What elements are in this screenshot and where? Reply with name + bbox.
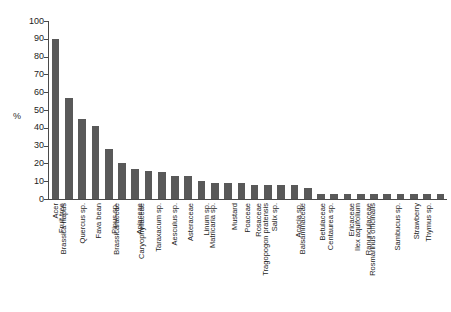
bar <box>437 21 445 199</box>
x-axis-tick-label-text: Strawberry <box>409 167 417 203</box>
bar <box>277 21 285 199</box>
x-axis-tick-label-text: Tragopogon pratensis <box>258 130 266 203</box>
x-axis-tick-label-text: Centaurea sp. <box>324 156 332 203</box>
y-axis-tick-label: 40 <box>34 123 44 132</box>
y-axis-tick-mark <box>44 74 48 75</box>
x-axis-tick-label-text: Mustard <box>228 176 236 203</box>
x-axis-tick-label-text: Salix sp. <box>267 175 275 203</box>
bar <box>238 21 246 199</box>
x-axis-tick-label-text: Brassica napus <box>57 152 65 203</box>
bar-rect <box>437 194 445 199</box>
y-axis-tick-label: 50 <box>34 106 44 115</box>
bar <box>304 21 312 199</box>
y-axis-title: % <box>13 111 21 121</box>
x-axis-tick-label-text: Poaceae <box>240 173 248 203</box>
y-axis-tick-label: 30 <box>34 141 44 150</box>
y-axis-tick-mark <box>44 57 48 58</box>
x-axis-tick-label-text: Ilex aquifolium <box>350 155 358 203</box>
y-axis-tick-label: 70 <box>34 70 44 79</box>
y-axis-tick-mark <box>44 146 48 147</box>
y-axis-tick-mark <box>44 128 48 129</box>
x-axis-tick-label-text: Quercus sp. <box>75 163 83 203</box>
bar-rect <box>118 163 126 199</box>
x-axis-tick-label-text: Betulaceae <box>315 165 323 203</box>
y-axis-tick-label: 10 <box>34 177 44 186</box>
y-axis-tick-mark <box>44 21 48 22</box>
x-axis-tick-label: Ranunculaceae <box>381 201 394 311</box>
bar-chart: % 1009080706050403020100 AcerFruit treeB… <box>0 0 451 312</box>
bar-rect <box>330 194 338 199</box>
y-axis-tick-mark <box>44 181 48 182</box>
y-axis-tick-mark <box>44 163 48 164</box>
x-axis-tick-label-text: Balsaminaceae <box>295 152 303 203</box>
x-axis-tick-label-text: Sambucus sp. <box>390 155 398 203</box>
bar <box>118 21 126 199</box>
y-axis-tick-label: 100 <box>29 17 44 26</box>
bar <box>158 21 166 199</box>
x-axis-tick-label: Salix sp. <box>275 201 288 311</box>
y-axis-tick-label: 60 <box>34 88 44 97</box>
bar <box>330 21 338 199</box>
bar-rect <box>65 98 73 199</box>
x-axis-tick-label-text: Rosmarinus officinalis <box>364 130 372 203</box>
x-axis-tick-label-text: Aesculus sp. <box>167 160 175 203</box>
y-axis-tick-labels: 1009080706050403020100 <box>22 16 44 206</box>
bar <box>65 21 73 199</box>
y-axis-tick-mark <box>44 92 48 93</box>
x-axis-tick-labels: AcerFruit treeBrassica napusQuercus sp.F… <box>49 201 447 311</box>
bar-rect <box>277 185 285 199</box>
y-axis-tick-label: 90 <box>34 34 44 43</box>
x-axis-tick-label-text: Matricaria sp. <box>206 158 214 203</box>
x-axis-tick-label: Thymus sp. <box>434 201 447 311</box>
x-axis-tick-label-text: Brassicaraceae <box>109 151 117 203</box>
bar-rect <box>158 172 166 199</box>
y-axis-tick-label: 20 <box>34 159 44 168</box>
y-axis-tick-label: 80 <box>34 52 44 61</box>
x-axis-tick-label-text: Caryophyllaceae <box>134 147 142 203</box>
x-axis-tick-label-text: Asteraceae <box>183 165 191 203</box>
y-axis-tick-mark <box>44 110 48 111</box>
y-axis-tick-mark <box>44 199 48 200</box>
x-axis-tick-label-text: Taraxacum sp. <box>151 154 159 203</box>
bar <box>224 21 232 199</box>
x-axis-tick-label-text: Fava bean <box>91 168 99 203</box>
x-axis-tick-label-text: Thymus sp. <box>421 164 429 203</box>
y-axis-tick-mark <box>44 39 48 40</box>
bar-rect <box>304 188 312 199</box>
